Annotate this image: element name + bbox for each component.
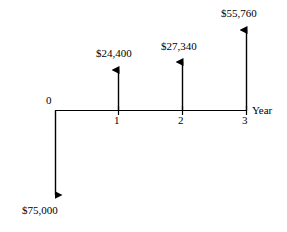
axis-tick-label-3: 3 (242, 115, 248, 126)
axis-label-origin: 0 (46, 95, 52, 106)
outflow-label-year-0: $75,000 (22, 205, 58, 216)
cash-flow-diagram: $55,760 $27,340 $24,400 0 1 2 3 Year $75… (0, 0, 287, 232)
axis-title-year: Year (252, 105, 272, 116)
axis-tick-label-2: 2 (178, 115, 184, 126)
inflow-label-year-3: $55,760 (221, 8, 257, 19)
axis-tick-label-1: 1 (114, 115, 120, 126)
inflow-label-year-2: $27,340 (161, 41, 197, 52)
inflow-label-year-1: $24,400 (96, 48, 132, 59)
